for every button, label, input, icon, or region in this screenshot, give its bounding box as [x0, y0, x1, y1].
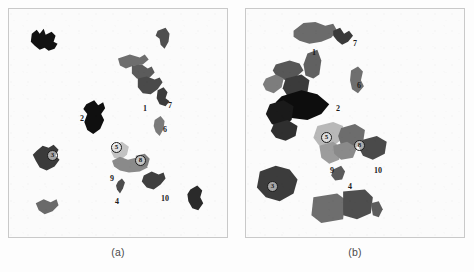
region-label-2: 2 — [336, 105, 340, 113]
region-label-7: 7 — [353, 40, 357, 48]
patch-2 — [83, 100, 105, 134]
region-label-3: 3 — [47, 150, 58, 161]
region-label-1: 1 — [143, 105, 147, 113]
region-label-4: 4 — [115, 198, 119, 206]
patch-4 — [116, 179, 125, 194]
region-label-5: 5 — [111, 142, 122, 153]
region-label-4: 4 — [348, 183, 352, 191]
figure-container: 17263589410 17625891034 (a) (b) — [0, 0, 474, 272]
region-label-9: 9 — [110, 175, 114, 183]
caption-panel-a: (a) — [58, 246, 178, 258]
region-label-5: 5 — [321, 132, 332, 143]
region-label-10: 10 — [161, 195, 169, 203]
patch-10 — [142, 172, 166, 190]
region-label-10: 10 — [374, 167, 382, 175]
patch-bottom-right — [343, 189, 373, 219]
region-label-3: 3 — [267, 181, 278, 192]
patch-topleft — [31, 29, 58, 51]
region-label-6: 6 — [357, 82, 361, 90]
region-label-1: 1 — [312, 49, 316, 57]
map-panel-b: 17625891034 — [245, 8, 465, 238]
region-label-7: 7 — [168, 102, 172, 110]
patch-bottomright — [187, 185, 203, 210]
patch-north — [156, 28, 170, 49]
map-panel-a: 17263589410 — [8, 8, 228, 238]
patch-bottom-tail — [371, 201, 383, 217]
region-label-6: 6 — [163, 126, 167, 134]
region-label-8: 8 — [354, 140, 365, 151]
patch-2-midleft — [263, 74, 284, 93]
patch-bottom-left — [311, 193, 345, 223]
region-label-9: 9 — [330, 167, 334, 175]
region-label-2: 2 — [80, 115, 84, 123]
region-label-8: 8 — [135, 155, 146, 166]
patch-1 — [294, 22, 338, 44]
patch-7 — [333, 28, 353, 45]
patch-bottomleft — [36, 199, 59, 214]
caption-panel-b: (b) — [295, 246, 415, 258]
